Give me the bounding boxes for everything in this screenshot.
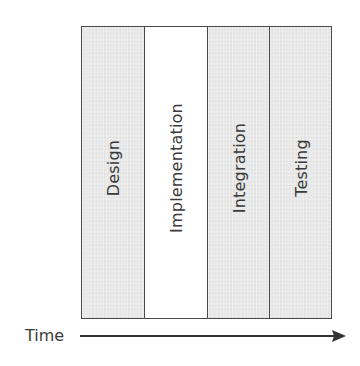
time-axis-label: Time (25, 326, 64, 345)
phase-testing: Testing (270, 27, 331, 318)
phase-diagram: Design Implementation Integration Testin… (81, 26, 332, 319)
phase-label-testing: Testing (291, 139, 310, 197)
arrow-right-icon (78, 328, 350, 344)
phase-integration: Integration (208, 27, 270, 318)
phase-label-integration: Integration (229, 123, 248, 213)
phase-label-design: Design (104, 140, 123, 196)
phase-implementation: Implementation (145, 27, 208, 318)
phase-design: Design (82, 27, 145, 318)
phase-label-implementation: Implementation (167, 103, 186, 233)
